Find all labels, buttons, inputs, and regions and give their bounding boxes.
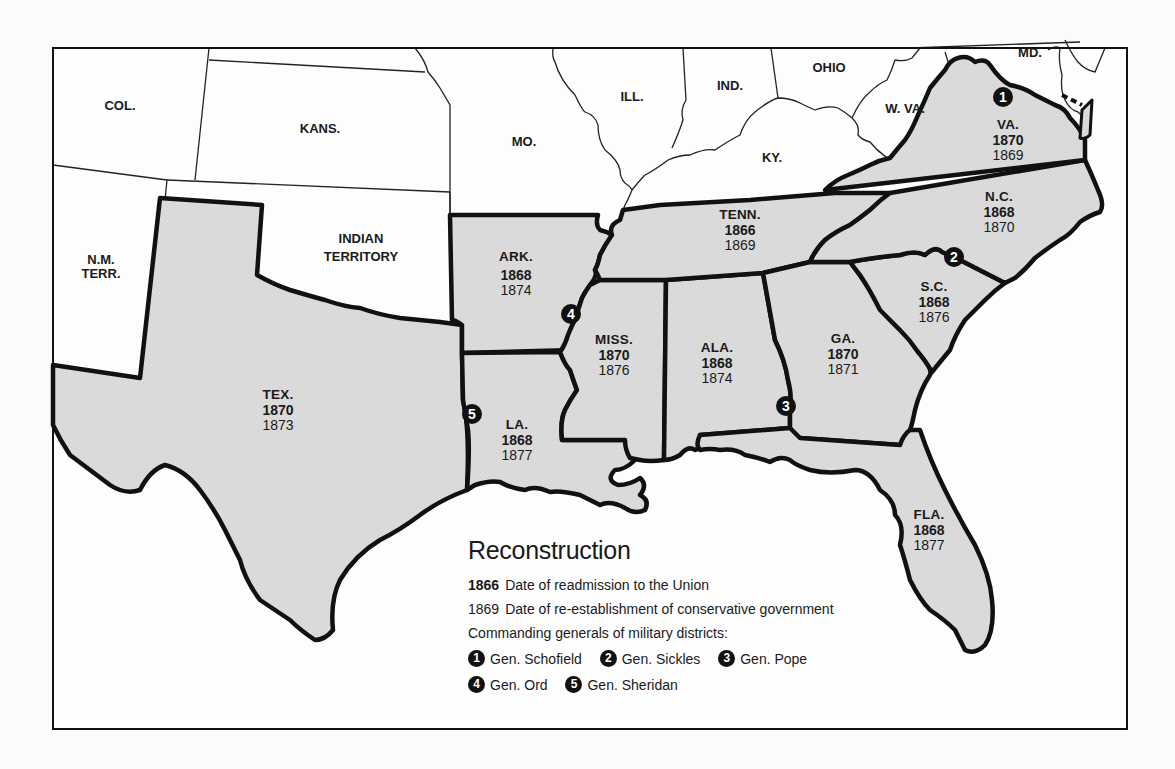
- legend-general-4: 4 Gen. Ord: [468, 676, 548, 693]
- district-2-icon: 2: [600, 650, 617, 667]
- legend-generals-row-1: 1 Gen. Schofield 2 Gen. Sickles 3 Gen. P…: [468, 649, 834, 667]
- legend-conservative: 1869Date of re-establishment of conserva…: [468, 601, 834, 617]
- legend-general-1: 1 Gen. Schofield: [468, 650, 582, 667]
- district-5-icon: 5: [565, 676, 582, 693]
- label-tenn: TENN. 1866 1869: [719, 208, 761, 253]
- label-ark: ARK. 1868 1874: [499, 250, 533, 298]
- legend-generals-heading: Commanding generals of military district…: [468, 625, 834, 641]
- legend-general-5: 5 Gen. Sheridan: [565, 676, 677, 693]
- label-ohio: OHIO: [812, 61, 845, 75]
- legend-conservative-text: Date of re-establishment of conservative…: [505, 601, 833, 617]
- legend: Reconstruction 1866Date of readmission t…: [468, 536, 834, 701]
- label-miss: MISS. 1870 1876: [595, 333, 633, 378]
- district-marker-2: 2: [944, 247, 964, 267]
- legend-general-3: 3 Gen. Pope: [718, 650, 807, 667]
- label-col: COL.: [104, 99, 135, 113]
- label-md: MD.: [1018, 46, 1042, 60]
- district-marker-3: 3: [776, 396, 796, 416]
- district-marker-5: 5: [462, 404, 482, 424]
- label-kans: KANS.: [300, 122, 340, 136]
- label-tex: TEX. 1870 1873: [262, 388, 293, 433]
- label-sc: S.C. 1868 1876: [918, 280, 949, 325]
- label-ga: GA. 1870 1871: [827, 332, 858, 377]
- district-4-icon: 4: [468, 676, 485, 693]
- legend-conservative-sample: 1869: [468, 601, 499, 617]
- legend-generals-row-2: 4 Gen. Ord 5 Gen. Sheridan: [468, 675, 834, 693]
- label-wva: W. VA.: [885, 102, 924, 116]
- legend-readmission-sample: 1866: [468, 577, 499, 593]
- label-la: LA. 1868 1877: [501, 418, 532, 463]
- label-va: VA. 1870 1869: [992, 118, 1023, 163]
- label-fla: FLA. 1868 1877: [913, 508, 944, 553]
- label-nm-terr: N.M. TERR.: [82, 253, 121, 281]
- legend-readmission-text: Date of readmission to the Union: [505, 577, 709, 593]
- legend-readmission: 1866Date of readmission to the Union: [468, 577, 834, 593]
- label-nc: N.C. 1868 1870: [983, 190, 1014, 235]
- label-ill: ILL.: [620, 90, 643, 104]
- label-ala: ALA. 1868 1874: [701, 341, 733, 386]
- label-ky: KY.: [762, 151, 782, 165]
- label-indian-territory: INDIAN TERRITORY: [324, 232, 398, 264]
- legend-title: Reconstruction: [468, 536, 834, 565]
- legend-general-2: 2 Gen. Sickles: [600, 650, 701, 667]
- district-marker-4: 4: [561, 304, 581, 324]
- label-mo: MO.: [512, 135, 537, 149]
- district-1-icon: 1: [468, 650, 485, 667]
- label-ind: IND.: [717, 79, 743, 93]
- district-marker-1: 1: [993, 87, 1013, 107]
- district-3-icon: 3: [718, 650, 735, 667]
